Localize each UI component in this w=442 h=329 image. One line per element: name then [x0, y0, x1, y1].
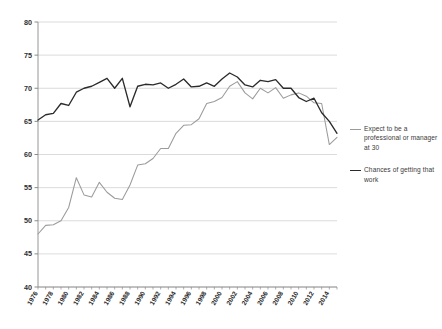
series-line-chances [38, 73, 337, 133]
y-axis-tick-label: 80 [24, 18, 32, 27]
x-axis-tick-label: 1976 [25, 290, 39, 306]
x-axis-tick-label: 1988 [117, 290, 131, 306]
x-axis-tick-label: 2002 [225, 290, 239, 306]
legend-line-swatch-black-icon [350, 170, 361, 171]
x-axis-tick-label-group: 1978 [41, 290, 55, 306]
x-axis-tick-label: 2014 [317, 290, 331, 306]
x-axis-tick-label-group: 1998 [194, 290, 208, 306]
legend-item-expect: Expect to be a professional or manager a… [350, 124, 442, 152]
x-axis-tick-label-group: 1992 [148, 290, 162, 306]
y-axis-tick-label: 70 [24, 84, 32, 93]
x-axis-tick-label: 1990 [133, 290, 147, 306]
x-axis-tick-label: 2004 [240, 290, 254, 306]
x-axis-tick-label: 1980 [56, 290, 70, 306]
x-axis-tick-label-group: 2010 [286, 290, 300, 306]
x-axis-tick-label-group: 2002 [225, 290, 239, 306]
x-axis-tick-label-group: 1980 [56, 290, 70, 306]
chart-legend: Expect to be a professional or manager a… [350, 124, 442, 197]
x-axis-tick-label-group: 2000 [209, 290, 223, 306]
x-axis-tick-label: 1978 [41, 290, 55, 306]
y-axis-tick-label: 75 [24, 51, 32, 60]
x-axis-tick-label: 1996 [179, 290, 193, 306]
x-axis-tick-label-group: 1986 [102, 290, 116, 306]
x-axis-tick-label-group: 1994 [163, 290, 177, 306]
y-axis-tick-label: 45 [24, 249, 32, 258]
x-axis-tick-label: 2012 [301, 290, 315, 306]
x-axis-tick-label-group: 1988 [117, 290, 131, 306]
x-axis-tick-label-group: 2012 [301, 290, 315, 306]
x-axis-tick-label-group: 1982 [71, 290, 85, 306]
x-axis-tick-label: 1982 [71, 290, 85, 306]
x-axis-tick-label: 1998 [194, 290, 208, 306]
line-chart: 4045505560657075801976197819801982198419… [0, 0, 442, 329]
x-axis-tick-label-group: 2006 [255, 290, 269, 306]
x-axis-tick-label-group: 2004 [240, 290, 254, 306]
x-axis-tick-label-group: 1990 [133, 290, 147, 306]
x-axis-tick-label: 1984 [87, 290, 101, 306]
x-axis-tick-label: 2010 [286, 290, 300, 306]
series-line-expect [38, 82, 337, 234]
x-axis-tick-label-group: 1984 [87, 290, 101, 306]
y-axis-tick-label: 55 [24, 183, 32, 192]
y-axis-tick-label: 50 [24, 216, 32, 225]
x-axis-tick-label: 1992 [148, 290, 162, 306]
x-axis-tick-label: 2000 [209, 290, 223, 306]
x-axis-tick-label-group: 1976 [25, 290, 39, 306]
x-axis-tick-label-group: 2014 [317, 290, 331, 306]
legend-item-chances: Chances of getting that work [350, 165, 442, 184]
legend-label-expect: Expect to be a professional or manager a… [364, 124, 442, 152]
x-axis-tick-label: 1994 [163, 290, 177, 306]
x-axis-tick-label: 2008 [271, 290, 285, 306]
x-axis-tick-label-group: 1996 [179, 290, 193, 306]
y-axis-tick-label: 40 [24, 283, 32, 292]
x-axis-tick-label: 2006 [255, 290, 269, 306]
legend-label-chances: Chances of getting that work [364, 165, 442, 184]
y-axis-tick-label: 65 [24, 117, 32, 126]
x-axis-tick-label: 1986 [102, 290, 116, 306]
x-axis-tick-label-group: 2008 [271, 290, 285, 306]
legend-line-swatch-gray-icon [350, 129, 361, 130]
y-axis-tick-label: 60 [24, 150, 32, 159]
